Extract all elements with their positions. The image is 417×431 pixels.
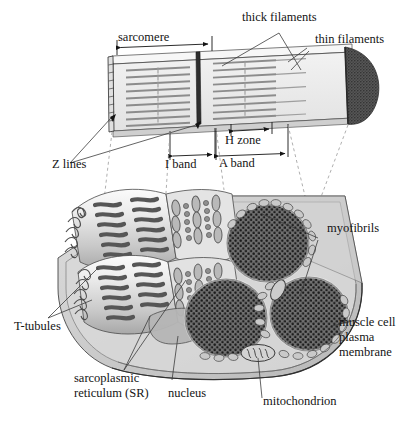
label-muscle-cell-plasma-membrane-line2: plasma [339, 330, 374, 344]
label-thick-filaments: thick filaments [242, 10, 317, 24]
figure-canvas: sarcomere thick filaments thin filaments… [0, 0, 417, 431]
label-sarcoplasmic-reticulum-line2: reticulum (SR) [74, 386, 149, 400]
muscle-fiber-cutaway [58, 189, 362, 379]
label-sarcoplasmic-reticulum-line1: sarcoplasmic [74, 371, 139, 385]
label-myofibrils: myofibrils [327, 221, 379, 235]
label-nucleus: nucleus [168, 386, 206, 400]
label-t-tubules: T-tubules [14, 319, 61, 333]
label-sarcomere: sarcomere [118, 30, 169, 44]
diagram-svg [0, 0, 417, 431]
label-h-zone: H zone [225, 133, 261, 147]
label-muscle-cell-plasma-membrane-line3: membrane [339, 345, 392, 359]
sarcomere-slab [108, 44, 379, 137]
label-mitochondrion: mitochondrion [263, 394, 337, 408]
label-muscle-cell-plasma-membrane-line1: muscle cell [339, 315, 396, 329]
label-a-band: A band [219, 156, 255, 170]
label-thin-filaments: thin filaments [315, 32, 384, 46]
label-z-lines: Z lines [52, 157, 86, 171]
myofibril-end-cap [345, 47, 379, 124]
z-line-middle [196, 52, 201, 125]
label-i-band: I band [165, 157, 197, 171]
